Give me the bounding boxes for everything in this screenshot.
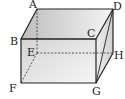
vertex-label-a: A [28,0,38,11]
vertex-label-g: G [92,85,101,98]
vertex-label-e: E [27,46,35,59]
vertex-label-d: D [113,0,122,13]
vertex-label-f: F [9,82,17,95]
vertex-label-h: H [114,49,124,62]
vertex-label-b: B [10,35,18,48]
cuboid-diagram: A B C D E F G H [0,0,125,99]
vertex-label-c: C [87,27,95,40]
